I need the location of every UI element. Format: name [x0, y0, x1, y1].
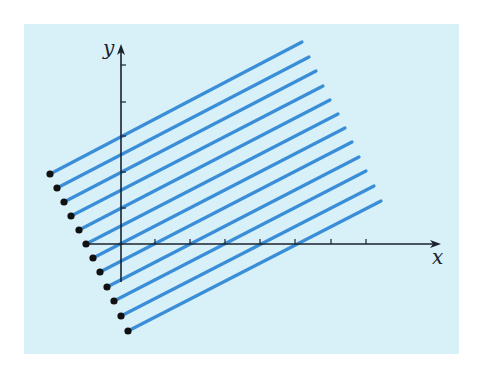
start-dot	[89, 254, 96, 261]
start-dot	[96, 268, 103, 275]
start-dot	[67, 212, 74, 219]
start-dot	[53, 184, 60, 191]
start-dot	[60, 198, 67, 205]
start-dot	[110, 297, 117, 304]
x-axis-label: x	[432, 245, 443, 269]
start-dot	[82, 240, 89, 247]
start-dot	[103, 283, 110, 290]
parallel-lines-diagram: x y	[0, 0, 481, 371]
start-dot	[124, 327, 131, 334]
start-dot	[75, 226, 82, 233]
start-dot	[117, 312, 124, 319]
y-axis-label: y	[102, 36, 115, 60]
start-dot	[46, 170, 53, 177]
